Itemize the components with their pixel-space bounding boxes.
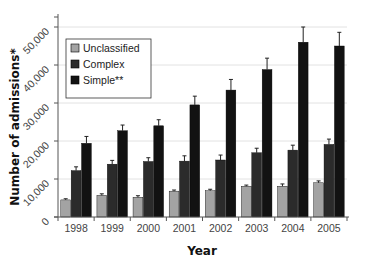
x-tick-label: 2002 bbox=[209, 222, 233, 234]
legend: UnclassifiedComplexSimple** bbox=[66, 39, 151, 98]
y-axis-title: Number of admissions* bbox=[8, 48, 22, 206]
legend-label: Unclassified bbox=[83, 42, 140, 54]
x-tick-labels: 19981999200020012002200320042005 bbox=[64, 222, 340, 234]
x-tick-label: 2000 bbox=[137, 222, 161, 234]
bar-complex bbox=[324, 144, 334, 217]
x-axis-title: Year bbox=[186, 244, 217, 258]
bar-complex bbox=[180, 161, 190, 217]
bar-unclassified bbox=[278, 186, 288, 217]
y-tick-labels: 010,00020,00030,00040,00050,000 bbox=[20, 25, 51, 228]
bar-simple bbox=[334, 46, 344, 217]
bar-unclassified bbox=[133, 197, 143, 217]
bar-complex bbox=[71, 171, 81, 217]
x-tick-label: 2003 bbox=[245, 222, 269, 234]
legend-swatch-icon bbox=[71, 60, 79, 68]
bar-simple bbox=[298, 42, 308, 217]
legend-label: Complex bbox=[83, 58, 125, 70]
y-tick-label: 50,000 bbox=[20, 25, 51, 56]
y-tick-label: 40,000 bbox=[20, 63, 51, 94]
y-tick-label: 10,000 bbox=[20, 177, 51, 208]
y-tick-label: 0 bbox=[39, 215, 52, 228]
x-tick-label: 2001 bbox=[173, 222, 197, 234]
bar-unclassified bbox=[61, 200, 71, 217]
bar-unclassified bbox=[314, 183, 324, 217]
x-tick-label: 2005 bbox=[317, 222, 341, 234]
bar-chart: 010,00020,00030,00040,00050,000 19981999… bbox=[0, 0, 365, 266]
bar-simple bbox=[154, 126, 164, 217]
y-tick-label: 30,000 bbox=[20, 101, 51, 132]
legend-swatch-icon bbox=[71, 76, 79, 84]
bar-complex bbox=[252, 153, 262, 217]
bar-unclassified bbox=[97, 195, 107, 217]
bar-unclassified bbox=[205, 191, 215, 217]
bar-complex bbox=[143, 162, 153, 217]
bar-complex bbox=[288, 150, 298, 217]
bar-simple bbox=[118, 131, 128, 217]
x-tick-label: 1999 bbox=[101, 222, 125, 234]
y-tick-label: 20,000 bbox=[20, 139, 51, 170]
x-tick-label: 2004 bbox=[281, 222, 305, 234]
bar-simple bbox=[226, 90, 236, 217]
bar-complex bbox=[107, 164, 117, 217]
bar-simple bbox=[190, 105, 200, 217]
bar-unclassified bbox=[169, 191, 179, 217]
bar-simple bbox=[262, 70, 272, 217]
bar-simple bbox=[82, 143, 92, 217]
legend-label: Simple** bbox=[83, 74, 123, 86]
bar-complex bbox=[216, 160, 226, 217]
bar-unclassified bbox=[241, 186, 251, 217]
x-tick-label: 1998 bbox=[64, 222, 88, 234]
legend-swatch-icon bbox=[71, 44, 79, 52]
